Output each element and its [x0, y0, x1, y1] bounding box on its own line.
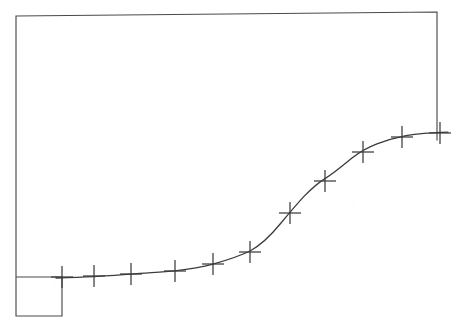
sigmoid-curve-figure	[0, 0, 459, 321]
figure-background	[0, 0, 459, 321]
figure-root	[0, 0, 459, 321]
